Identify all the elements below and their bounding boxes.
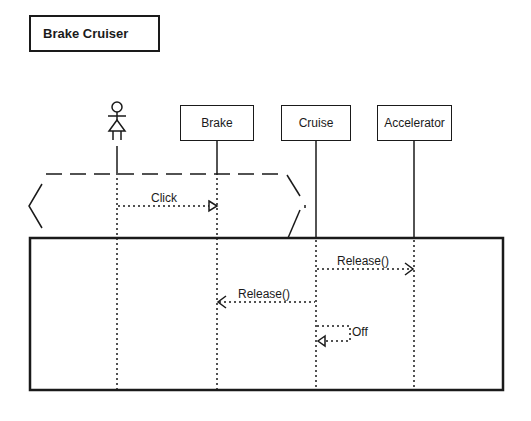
message-click-label: Click: [151, 191, 177, 205]
message-release-brake-label: Release(): [238, 287, 290, 301]
sequence-diagram-canvas: [0, 0, 531, 421]
message-off-label: Off: [352, 325, 368, 339]
condition-fragment: [29, 174, 305, 238]
lifelines-dotted: [117, 178, 414, 390]
interaction-frame: [30, 238, 503, 390]
message-off-self[interactable]: [317, 326, 350, 346]
actor-icon[interactable]: [108, 102, 126, 140]
lifelines-solid: [117, 141, 414, 238]
message-release-accelerator-label: Release(): [337, 254, 389, 268]
